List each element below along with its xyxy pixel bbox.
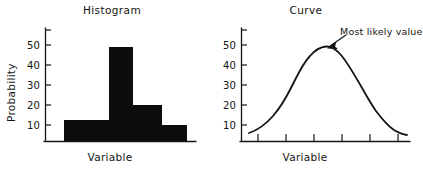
histogram-bars <box>64 47 187 141</box>
curve-line <box>249 46 407 135</box>
annotation-arrow-head <box>327 42 338 50</box>
curve-panel: Curve 50 40 30 20 10 <box>210 0 420 169</box>
histogram-panel: Histogram Probability 50 40 30 20 10 Var… <box>0 0 210 169</box>
curve-annotation-label: Most likely value <box>340 26 423 37</box>
histogram-x-axis-label: Variable <box>0 151 210 163</box>
curve-x-axis-label: Variable <box>210 151 420 163</box>
histogram-plot <box>0 0 210 169</box>
